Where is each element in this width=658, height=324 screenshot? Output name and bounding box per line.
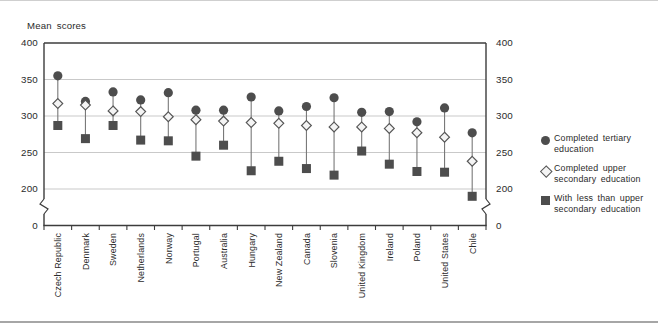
y-tick-label-left: 200 — [21, 183, 38, 194]
marker-upper-secondary-diamond — [274, 118, 284, 128]
marker-less-than-upper-square — [81, 134, 90, 143]
x-category-label: Canada — [302, 233, 312, 265]
marker-less-than-upper-square — [136, 136, 145, 145]
marker-tertiary-circle — [329, 93, 338, 102]
marker-tertiary-circle — [219, 106, 228, 115]
marker-tertiary-circle — [385, 107, 394, 116]
y-tick-label-right: 300 — [496, 110, 513, 121]
x-category-label: United Kingdom — [357, 233, 367, 298]
marker-upper-secondary-diamond — [467, 156, 477, 166]
marker-tertiary-circle — [274, 106, 283, 115]
x-category-label: Poland — [412, 233, 422, 262]
x-category-label: Czech Republic — [53, 233, 63, 298]
marker-less-than-upper-square — [191, 152, 200, 161]
marker-upper-secondary-diamond — [302, 121, 312, 131]
marker-upper-secondary-diamond — [219, 116, 229, 126]
marker-tertiary-circle — [302, 102, 311, 111]
marker-upper-secondary-diamond — [108, 106, 118, 116]
marker-less-than-upper-square — [274, 157, 283, 166]
marker-less-than-upper-square — [109, 121, 118, 130]
x-category-label: Slovenia — [329, 233, 339, 268]
marker-tertiary-circle — [440, 103, 449, 112]
legend-label-line: Completed upper — [554, 163, 626, 173]
x-category-label: Sweden — [108, 233, 118, 266]
legend-label-upper-secondary: Completed upper secondary education — [554, 163, 641, 184]
marker-upper-secondary-diamond — [384, 124, 394, 134]
legend-circle-icon — [541, 133, 554, 145]
legend-label-tertiary: Completed tertiary education — [554, 133, 631, 154]
marker-upper-secondary-diamond — [53, 99, 63, 109]
legend-label-line: education — [554, 144, 594, 154]
y-tick-label-left: 250 — [21, 147, 38, 158]
y-tick-label-right: 400 — [496, 37, 513, 48]
marker-upper-secondary-diamond — [357, 122, 367, 132]
marker-upper-secondary-diamond — [246, 118, 256, 128]
marker-upper-secondary-diamond — [136, 107, 146, 117]
axis-break-right-icon — [482, 199, 490, 214]
x-category-label: Netherlands — [136, 233, 146, 283]
y-tick-label-left: 350 — [21, 74, 38, 85]
y-tick-label-left: 300 — [21, 110, 38, 121]
marker-less-than-upper-square — [247, 166, 256, 175]
marker-tertiary-circle — [108, 87, 117, 96]
marker-tertiary-circle — [468, 128, 477, 137]
marker-less-than-upper-square — [412, 167, 421, 176]
marker-less-than-upper-square — [440, 168, 449, 177]
legend-label-less-than-upper: With less than upper secondary education — [554, 193, 643, 214]
y-tick-label-right: 0 — [496, 220, 502, 231]
legend-item-upper-secondary: Completed upper secondary education — [541, 163, 657, 184]
legend-label-line: secondary education — [554, 174, 641, 184]
marker-less-than-upper-square — [357, 147, 366, 156]
legend-label-line: secondary education — [554, 204, 641, 214]
y-tick-label-left: 400 — [21, 37, 38, 48]
x-category-label: United States — [440, 233, 450, 289]
marker-tertiary-circle — [136, 95, 145, 104]
marker-tertiary-circle — [412, 117, 421, 126]
marker-tertiary-circle — [247, 92, 256, 101]
marker-less-than-upper-square — [385, 160, 394, 169]
marker-less-than-upper-square — [302, 164, 311, 173]
legend-diamond-icon — [541, 163, 554, 176]
marker-upper-secondary-diamond — [329, 122, 339, 132]
y-tick-label-right: 350 — [496, 74, 513, 85]
legend-square-icon — [541, 193, 554, 205]
marker-upper-secondary-diamond — [412, 128, 422, 138]
x-category-label: Norway — [164, 233, 174, 264]
marker-upper-secondary-diamond — [440, 132, 450, 142]
y-tick-label-right: 200 — [496, 183, 513, 194]
marker-less-than-upper-square — [468, 192, 477, 201]
marker-less-than-upper-square — [53, 121, 62, 130]
marker-tertiary-circle — [53, 71, 62, 80]
x-category-label: Australia — [219, 233, 229, 269]
marker-tertiary-circle — [357, 108, 366, 117]
legend-item-tertiary: Completed tertiary education — [541, 133, 657, 154]
x-category-label: Portugal — [191, 233, 201, 267]
marker-less-than-upper-square — [330, 171, 339, 180]
y-tick-label-left: 0 — [32, 220, 38, 231]
x-category-label: Chile — [468, 233, 478, 254]
x-category-label: Denmark — [81, 233, 91, 270]
legend: Completed tertiary education Completed u… — [541, 133, 657, 224]
legend-label-line: Completed tertiary — [554, 133, 631, 143]
y-tick-label-right: 250 — [496, 147, 513, 158]
x-category-label: Hungary — [247, 233, 257, 268]
axis-break-left-icon — [40, 199, 48, 214]
legend-item-less-than-upper: With less than upper secondary education — [541, 193, 657, 214]
marker-less-than-upper-square — [219, 141, 228, 150]
x-category-label: Ireland — [385, 233, 395, 261]
marker-upper-secondary-diamond — [163, 112, 173, 122]
marker-less-than-upper-square — [164, 136, 173, 145]
x-category-label: New Zealand — [274, 233, 284, 287]
legend-label-line: With less than upper — [554, 193, 643, 203]
marker-tertiary-circle — [164, 88, 173, 97]
marker-tertiary-circle — [191, 106, 200, 115]
figure: Mean scores 4004003503503003002502502002… — [0, 0, 658, 324]
